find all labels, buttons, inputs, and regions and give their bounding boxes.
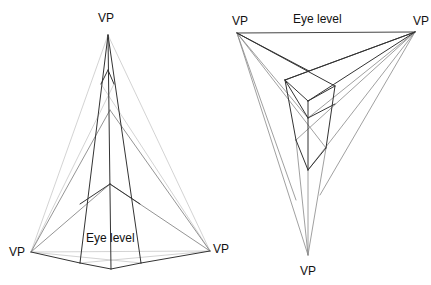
left-vp-left-label: VP [9, 246, 25, 258]
right-vp-right-label: VP [413, 15, 429, 27]
right-construction-lines [237, 32, 415, 255]
left-vp-right-label: VP [213, 243, 229, 255]
right-eye-level-label: Eye level [293, 13, 342, 25]
right-diagram [237, 32, 415, 255]
left-vp-top-label: VP [98, 12, 114, 24]
right-vp-bottom-label: VP [300, 265, 316, 277]
left-eye-level-label: Eye level [86, 232, 135, 244]
eye-level-line [237, 32, 415, 33]
right-vp-left-label: VP [232, 15, 248, 27]
